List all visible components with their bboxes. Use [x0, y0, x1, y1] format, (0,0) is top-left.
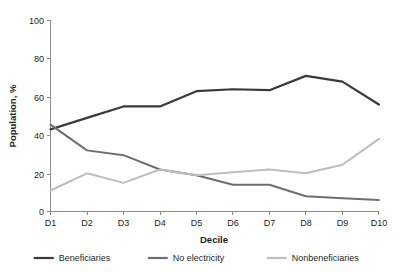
y-tick-label-40: 40: [34, 131, 44, 141]
x-tick-label-d6: D6: [227, 218, 239, 228]
x-axis-ticks: [51, 212, 379, 216]
y-tick-label-0: 0: [39, 207, 44, 217]
y-tick-label-100: 100: [29, 16, 44, 26]
x-tick-label-d7: D7: [264, 218, 276, 228]
series-line-no-electricity: [51, 125, 379, 200]
line-chart: 100 80 60 40 20 0 D1 D2 D3 D4 D5: [0, 0, 403, 272]
x-tick-label-d2: D2: [81, 218, 93, 228]
y-axis-tick-labels: 100 80 60 40 20 0: [29, 16, 44, 217]
y-tick-label-80: 80: [34, 54, 44, 64]
x-tick-label-d10: D10: [371, 218, 388, 228]
chart-legend: BeneficiariesNo electricityNonbeneficiar…: [34, 253, 359, 263]
x-axis-tick-labels: D1 D2 D3 D4 D5 D6 D7 D8 D9 D10: [45, 218, 387, 228]
x-tick-label-d4: D4: [154, 218, 166, 228]
legend-label-nonbeneficiaries: Nonbeneficiaries: [292, 253, 360, 263]
x-axis-title: Decile: [200, 234, 228, 245]
x-tick-label-d8: D8: [300, 218, 312, 228]
x-tick-label-d3: D3: [118, 218, 130, 228]
x-tick-label-d1: D1: [45, 218, 57, 228]
x-tick-label-d9: D9: [337, 218, 349, 228]
x-tick-label-d5: D5: [191, 218, 203, 228]
series-group: [51, 76, 379, 200]
y-axis-title: Population, %: [7, 84, 18, 147]
series-line-beneficiaries: [51, 76, 379, 129]
y-tick-label-60: 60: [34, 93, 44, 103]
chart-container: 100 80 60 40 20 0 D1 D2 D3 D4 D5: [0, 0, 403, 272]
legend-label-no-electricity: No electricity: [173, 253, 225, 263]
series-line-nonbeneficiaries: [51, 139, 379, 191]
y-tick-label-20: 20: [34, 170, 44, 180]
y-axis-ticks: [47, 21, 51, 212]
legend-label-beneficiaries: Beneficiaries: [59, 253, 111, 263]
